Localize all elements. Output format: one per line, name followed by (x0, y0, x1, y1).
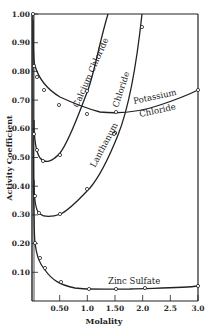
x-tick-label: 2.5 (164, 304, 177, 313)
x-axis-title: Molality (86, 316, 123, 326)
y-tick-label: 0.20 (12, 239, 30, 248)
x-axis-ticks: 0.501.01.502.02.53.0 (51, 295, 205, 313)
x-tick-label: 3.0 (191, 304, 204, 313)
y-tick-label: 0.60 (12, 124, 30, 133)
y-tick-label: 0.80 (12, 67, 30, 76)
label-zinc-sulfate: Zinc Sulfate (108, 276, 160, 286)
y-tick-label: 0.10 (12, 268, 30, 277)
y-axis-title: Activity Coefficient (4, 115, 14, 202)
data-points (31, 12, 199, 290)
x-tick-label: 1.0 (81, 304, 94, 313)
y-tick-label: 1.00 (12, 10, 30, 19)
curves (33, 14, 198, 289)
curve-calcium-chloride (34, 14, 108, 161)
x-tick-label: 1.50 (106, 304, 124, 313)
plot-frame (32, 14, 198, 301)
y-tick-label: 0.70 (12, 96, 30, 105)
x-tick-label: 2.0 (136, 304, 149, 313)
y-tick-label: 0.50 (12, 153, 30, 162)
x-tick-label: 0.50 (51, 304, 69, 313)
activity-coefficient-chart: 0.100.200.300.400.500.600.700.800.901.00… (0, 0, 208, 336)
y-tick-label: 0.30 (12, 210, 30, 219)
label-calcium-chloride: Calcium Chloride (71, 36, 111, 109)
y-tick-label: 0.90 (12, 38, 30, 47)
label-lanthanum: Lanthanum (88, 121, 120, 169)
y-tick-label: 0.40 (12, 182, 30, 191)
label-potassium-chloride: Chloride (138, 101, 176, 118)
